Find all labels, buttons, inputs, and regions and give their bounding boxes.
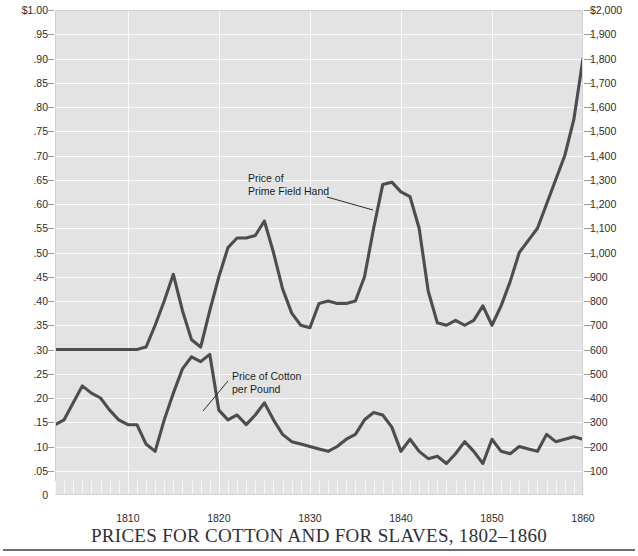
x-axis-tick (301, 481, 302, 494)
y-axis-tick-left (46, 180, 54, 181)
x-axis-tick (310, 481, 311, 494)
y-axis-tick-left (46, 83, 54, 84)
x-axis-tick (437, 481, 438, 494)
x-axis-tick (128, 481, 129, 494)
x-axis-tick (574, 481, 575, 494)
y-axis-label-right: 900 (590, 272, 638, 282)
x-axis-tick (510, 481, 511, 494)
y-axis-tick-left (46, 156, 54, 157)
y-axis-label-left: .85 (4, 78, 48, 88)
y-axis-label-right: 1,000 (590, 248, 638, 258)
y-axis-tick-right (584, 10, 592, 11)
x-axis-tick (82, 481, 83, 494)
y-axis-label-right: 1,800 (590, 54, 638, 64)
y-axis-tick-right (584, 277, 592, 278)
y-axis-tick-left (46, 34, 54, 35)
x-axis-tick (91, 481, 92, 494)
y-axis-label-right: 700 (590, 320, 638, 330)
plot-area (55, 10, 583, 495)
x-axis-tick (337, 481, 338, 494)
y-axis-tick-left (46, 301, 54, 302)
y-axis-label-left: .75 (4, 126, 48, 136)
x-axis-tick (110, 481, 111, 494)
x-axis-tick (392, 481, 393, 494)
y-axis-tick-left (46, 447, 54, 448)
y-axis-tick-right (584, 34, 592, 35)
y-axis-tick-right (584, 325, 592, 326)
y-axis-label-left: .70 (4, 151, 48, 161)
title-rule (3, 549, 635, 551)
x-axis-tick (182, 481, 183, 494)
y-axis-tick-left (46, 131, 54, 132)
y-axis-tick-right (584, 107, 592, 108)
y-axis-label-right: 800 (590, 296, 638, 306)
x-axis-tick (146, 481, 147, 494)
x-axis-tick (210, 481, 211, 494)
y-axis-tick-right (584, 228, 592, 229)
x-axis-tick (401, 481, 402, 494)
y-axis-label-left: .50 (4, 248, 48, 258)
y-axis-label-left: .65 (4, 175, 48, 185)
x-axis-tick (465, 481, 466, 494)
x-axis-tick (73, 481, 74, 494)
y-axis-label-left: .45 (4, 272, 48, 282)
chart-title: PRICES FOR COTTON AND FOR SLAVES, 1802–1… (0, 525, 638, 547)
x-axis-tick (583, 481, 584, 494)
y-axis-label-right: 200 (590, 442, 638, 452)
x-axis-label: 1820 (194, 513, 244, 524)
y-axis-label-right: 600 (590, 345, 638, 355)
y-axis-label-right: 1,500 (590, 126, 638, 136)
y-axis-label-right: 500 (590, 369, 638, 379)
x-axis-tick (501, 481, 502, 494)
y-axis-label-left: .90 (4, 54, 48, 64)
y-axis-label-left: .60 (4, 199, 48, 209)
y-axis-tick-right (584, 204, 592, 205)
y-axis-label-right: 1,200 (590, 199, 638, 209)
x-axis-tick (456, 481, 457, 494)
y-axis-tick-right (584, 471, 592, 472)
x-axis-tick (328, 481, 329, 494)
y-axis-label-left: .15 (4, 417, 48, 427)
x-axis-tick (355, 481, 356, 494)
x-axis-tick (201, 481, 202, 494)
x-axis-tick (519, 481, 520, 494)
x-axis-tick (219, 481, 220, 494)
x-axis-tick (528, 481, 529, 494)
y-axis-tick-left (46, 374, 54, 375)
y-axis-label-left: .20 (4, 393, 48, 403)
x-axis-tick (228, 481, 229, 494)
x-axis-tick (492, 481, 493, 494)
y-axis-tick-left (46, 350, 54, 351)
x-axis-tick (64, 481, 65, 494)
x-axis-tick (319, 481, 320, 494)
y-axis-label-left: .95 (4, 29, 48, 39)
y-axis-tick-right (584, 156, 592, 157)
x-axis-tick (192, 481, 193, 494)
x-axis-tick (556, 481, 557, 494)
y-axis-label-left: .30 (4, 345, 48, 355)
x-axis-tick (246, 481, 247, 494)
y-axis-label-right: 1,400 (590, 151, 638, 161)
x-axis-tick (55, 481, 56, 494)
x-axis-tick (264, 481, 265, 494)
y-axis-label-left: .05 (4, 466, 48, 476)
x-axis-tick (547, 481, 548, 494)
y-axis-tick-left (46, 107, 54, 108)
y-axis-tick-left (46, 59, 54, 60)
y-axis-tick-left (46, 422, 54, 423)
y-axis-tick-left (46, 398, 54, 399)
x-axis-tick (419, 481, 420, 494)
x-axis-tick (383, 481, 384, 494)
y-axis-tick-right (584, 131, 592, 132)
annotation-cotton-price: Price of Cotton per Pound (232, 370, 301, 395)
annotation-prime-field-hand: Price of Prime Field Hand (248, 172, 329, 197)
x-axis-tick (410, 481, 411, 494)
x-axis-tick (483, 481, 484, 494)
x-axis-tick (283, 481, 284, 494)
x-axis-tick (155, 481, 156, 494)
leader-line-cotton (55, 10, 583, 495)
x-axis-tick (119, 481, 120, 494)
x-axis-tick (474, 481, 475, 494)
x-axis-label: 1810 (103, 513, 153, 524)
y-axis-label-right: 400 (590, 393, 638, 403)
